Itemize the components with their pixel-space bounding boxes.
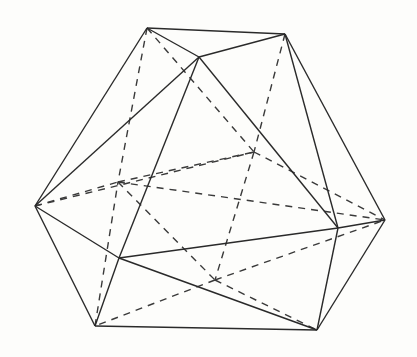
hidden-edge-JE bbox=[95, 182, 118, 326]
visible-edge-JK bbox=[95, 326, 317, 330]
visible-edge-BG bbox=[285, 34, 338, 228]
visible-edge-CB bbox=[199, 34, 285, 57]
hidden-edge-IF bbox=[215, 220, 385, 280]
visible-edge-FK bbox=[317, 220, 385, 330]
icosahedron-diagram bbox=[0, 0, 417, 357]
visible-edge-GK bbox=[317, 228, 338, 330]
hidden-edge-BL bbox=[254, 34, 285, 152]
visible-edge-BF bbox=[285, 34, 385, 220]
hidden-edge-LI bbox=[215, 152, 254, 280]
hidden-edge-EI bbox=[118, 182, 215, 280]
visible-edge-AB bbox=[147, 28, 285, 34]
hidden-edge-IK bbox=[215, 280, 317, 330]
visible-edge-GF bbox=[338, 220, 385, 228]
visible-edges bbox=[35, 28, 385, 330]
visible-edge-HJ bbox=[95, 258, 119, 326]
visible-edge-CD bbox=[35, 57, 199, 206]
hidden-edge-EF bbox=[118, 182, 385, 220]
visible-edge-AD bbox=[35, 28, 147, 206]
visible-edge-AC bbox=[147, 28, 199, 57]
visible-edge-HG bbox=[119, 228, 338, 258]
hidden-edge-EL bbox=[118, 152, 254, 182]
hidden-edges bbox=[35, 28, 385, 330]
hidden-edge-DL bbox=[35, 152, 254, 206]
visible-edge-CG bbox=[199, 57, 338, 228]
visible-edge-CH bbox=[119, 57, 199, 258]
